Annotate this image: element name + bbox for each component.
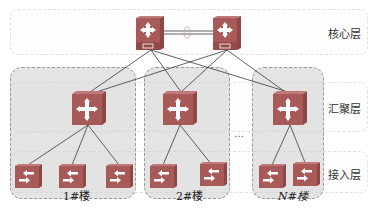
layer3-switch-icon — [273, 91, 307, 125]
router-icon — [213, 16, 241, 50]
layer3-switch-icon — [72, 91, 106, 125]
switch-icon — [259, 164, 286, 188]
access-switch-1-1 — [15, 164, 42, 188]
access-switch-1-2 — [59, 164, 86, 188]
switch-icon — [150, 164, 177, 188]
core-switch-2 — [213, 16, 241, 50]
switch-icon — [59, 164, 86, 188]
aggregation-layer-label: 汇聚层 — [328, 100, 361, 116]
core-layer-label: 核心层 — [328, 25, 361, 41]
switch-icon — [15, 164, 42, 188]
access-switch-n-2 — [293, 162, 320, 186]
more-buildings-ellipsis: … — [234, 128, 245, 139]
aggregation-switch-n — [273, 91, 307, 125]
core-switch-1 — [136, 16, 164, 50]
access-switch-2-2 — [200, 162, 227, 186]
switch-icon — [200, 162, 227, 186]
building-2-label: 2#楼 — [176, 187, 203, 203]
access-layer-label: 接入层 — [328, 166, 361, 182]
aggregation-switch-1 — [72, 91, 106, 125]
access-switch-2-1 — [150, 164, 177, 188]
switch-icon — [106, 164, 133, 188]
router-icon — [136, 16, 164, 50]
access-switch-1-3 — [106, 164, 133, 188]
aggregation-switch-2 — [163, 91, 197, 125]
switch-icon — [293, 162, 320, 186]
access-switch-n-1 — [259, 164, 286, 188]
layer3-switch-icon — [163, 91, 197, 125]
building-1-label: 1#楼 — [63, 187, 90, 203]
building-n-label: N#楼 — [278, 187, 308, 203]
